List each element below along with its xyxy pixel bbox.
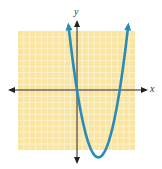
coordinate-plane [0,0,162,169]
y-axis-label: y [74,6,78,17]
x-axis-left-arrow-icon [8,87,15,93]
curve-right-arrow-icon [124,22,131,30]
y-axis-down-arrow-icon [74,157,80,164]
curve-left-arrow-icon [66,22,73,30]
y-axis-up-arrow-icon [74,20,80,27]
x-axis-label: x [150,83,154,94]
x-axis-right-arrow-icon [141,87,148,93]
